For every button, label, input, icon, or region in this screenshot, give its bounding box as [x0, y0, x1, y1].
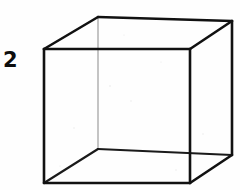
figure-number-label: 2 [3, 47, 25, 73]
figure-canvas: 2 [0, 0, 240, 190]
cube-drawing [0, 0, 240, 190]
paper-background [0, 0, 240, 190]
